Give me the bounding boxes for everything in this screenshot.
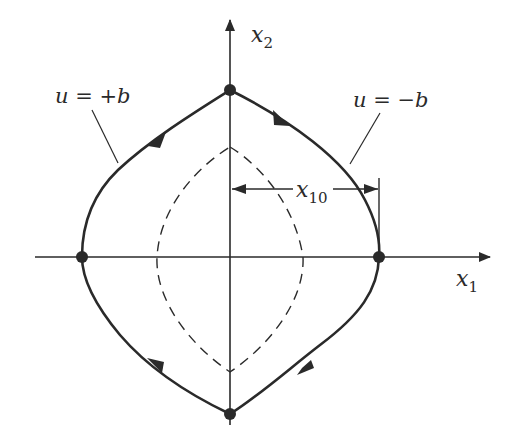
x1-axis-label: x1 bbox=[456, 266, 478, 296]
plus-b-leader bbox=[92, 110, 118, 163]
u-plus-b-label: u = +b bbox=[55, 84, 131, 108]
u-minus-b-label: u = −b bbox=[353, 88, 429, 112]
minus-b-leader bbox=[350, 113, 380, 164]
x2-axis-label: x2 bbox=[251, 22, 273, 52]
arrowhead-icon bbox=[148, 132, 166, 148]
switch-point-left bbox=[76, 251, 88, 263]
phase-plane-diagram: x2 x1 u = +b u = −b x10 bbox=[0, 0, 519, 445]
x10-label: x10 bbox=[296, 177, 328, 207]
switch-point-top bbox=[224, 84, 236, 96]
switch-point-bottom bbox=[224, 408, 236, 420]
